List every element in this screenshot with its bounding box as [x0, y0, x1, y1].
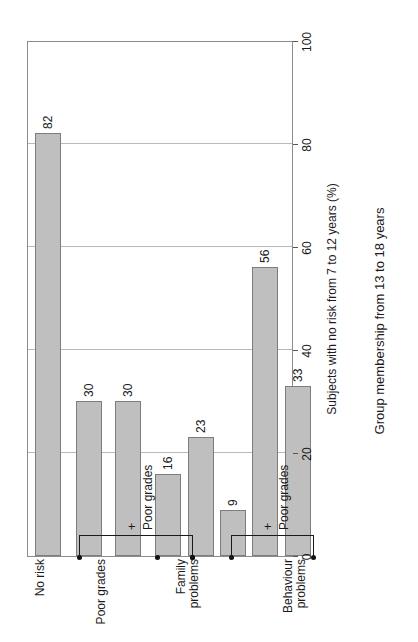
bracket-label-poor-grades: Poor grades [278, 465, 292, 530]
axis-tick-label: 100 [300, 32, 314, 52]
bracket-plus-sign: + [126, 523, 140, 530]
chart-page: 82 30 30 16 23 [0, 0, 418, 642]
bar [155, 474, 181, 556]
bar-row: 9 [220, 499, 246, 556]
bracket-arm [231, 536, 232, 558]
value-axis-title-wrap: Subjects with no risk from 7 to 12 years… [325, 41, 345, 557]
axis-tick [293, 247, 298, 248]
bracket-plus-sign: + [262, 523, 276, 530]
bar [220, 510, 246, 556]
plot-area: 82 30 30 16 23 [27, 41, 293, 557]
bar-value-label: 16 [162, 457, 174, 470]
bar-value-label: 30 [122, 384, 134, 397]
axis-tick [293, 453, 298, 454]
chart-figure: 82 30 30 16 23 [0, 0, 418, 642]
bar-value-label: 30 [83, 384, 95, 397]
bar-row: 30 [76, 384, 102, 556]
bracket-arm [313, 536, 314, 558]
axis-tick [293, 556, 298, 557]
bracket-label-poor-grades: Poor grades [142, 465, 156, 530]
axis-tick-label: 40 [300, 344, 314, 357]
bracket-arm [79, 536, 80, 558]
category-label-poor-grades: Poor grades [95, 559, 108, 642]
category-axis-title-wrap: Group membership from 13 to 18 years [372, 0, 392, 642]
value-axis-title: Subjects with no risk from 7 to 12 years… [325, 41, 339, 557]
category-label-no-risk: No risk [34, 559, 47, 642]
bar [76, 401, 102, 556]
bar-row: 56 [252, 250, 278, 556]
axis-tick-label: 20 [300, 447, 314, 460]
gridline-80 [28, 143, 292, 144]
axis-tick [293, 41, 298, 42]
category-label-behaviour-problems: Behaviour problems [282, 559, 308, 642]
category-axis-title: Group membership from 13 to 18 years [372, 0, 387, 642]
bar-value-label: 23 [195, 420, 207, 433]
bracket-spine [79, 535, 193, 536]
behaviour-problems-line2: problems [294, 559, 308, 608]
bar [35, 133, 61, 556]
bar-value-label: 56 [259, 250, 271, 263]
bar-row: 30 [115, 384, 141, 556]
category-label-family-problems: Family problems [175, 559, 201, 642]
bracket-spine [231, 535, 314, 536]
bar-value-label: 9 [227, 499, 239, 506]
bracket-endpoint-dot [155, 555, 160, 560]
axis-tick [293, 144, 298, 145]
gridline-60 [28, 246, 292, 247]
axis-tick-label: 80 [300, 138, 314, 151]
axis-tick [293, 350, 298, 351]
value-axis: 0 20 40 60 80 100 [293, 41, 319, 557]
bar [115, 401, 141, 556]
bar [252, 267, 278, 556]
bar-row: 82 [35, 116, 61, 556]
axis-tick-label: 60 [300, 241, 314, 254]
bar-value-label: 82 [42, 116, 54, 129]
bracket-endpoint-dot [190, 555, 195, 560]
behaviour-problems-line1: Behaviour [281, 559, 295, 613]
bar-row: 16 [155, 457, 181, 556]
